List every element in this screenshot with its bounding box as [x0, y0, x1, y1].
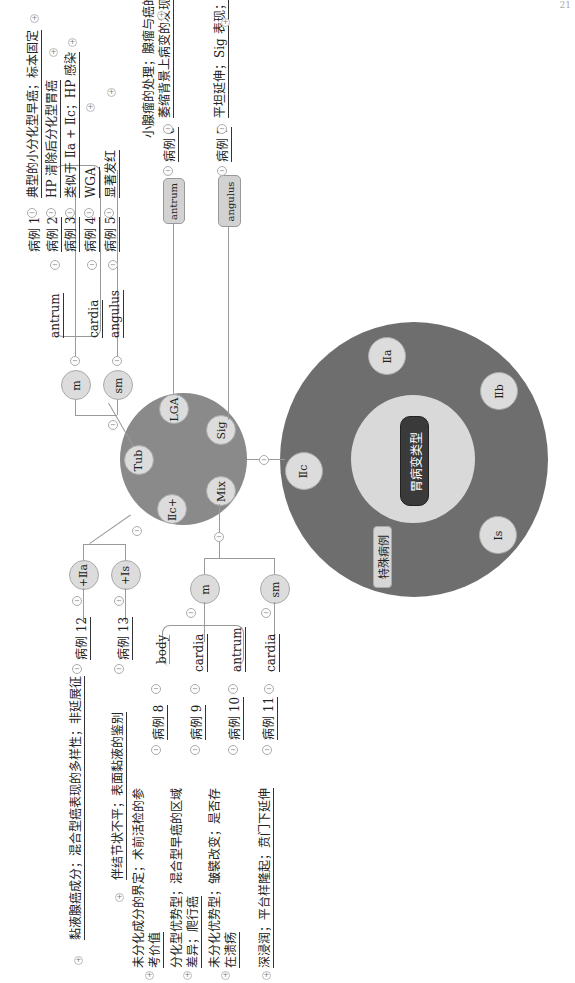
case-4-label[interactable]: 病例 4: [84, 217, 100, 252]
node-plus-iia[interactable]: +Ⅱa: [69, 560, 99, 590]
expand-case-2[interactable]: +: [49, 48, 58, 57]
collapse-toggle-antrum-10[interactable]: −: [228, 684, 238, 694]
tub-depth-m[interactable]: m: [61, 370, 91, 400]
node-plus-is[interactable]: +Ⅰs: [111, 560, 141, 590]
collapse-toggle-cardia-9[interactable]: −: [190, 684, 200, 694]
case-12-note: 黏液腺癌成分；混合型癌表现的多样性；非延展征: [69, 676, 85, 940]
case-3-label[interactable]: 病例 3: [64, 217, 80, 252]
special-cases-label[interactable]: 特殊病例: [373, 526, 392, 588]
sig-site-angulus[interactable]: angulus: [218, 175, 241, 227]
expand-case-8[interactable]: +: [145, 971, 154, 980]
collapse-toggle-antrum[interactable]: −: [50, 260, 60, 270]
expand-case-13[interactable]: +: [115, 893, 124, 902]
expand-case-6[interactable]: +: [157, 11, 166, 20]
lga-site-antrum[interactable]: antrum: [163, 178, 185, 224]
ring-node-iic[interactable]: Ⅱc: [285, 452, 323, 490]
case-13-label[interactable]: 病例 13: [117, 617, 133, 660]
root-topic[interactable]: 胃病变类型: [400, 416, 429, 506]
case-11-note: 深浸润；平台样隆起；贲门下延伸: [258, 788, 274, 968]
collapse-toggle-mix-m[interactable]: −: [186, 608, 196, 618]
mix-depth-m[interactable]: m: [190, 574, 220, 604]
hub-node-tub[interactable]: Tub: [124, 445, 154, 475]
collapse-toggle-iic-plus[interactable]: −: [132, 526, 142, 536]
connector-iic-plus-bar: [83, 544, 125, 545]
expand-case-9[interactable]: +: [183, 971, 192, 980]
hub-node-mix[interactable]: Mix: [206, 476, 236, 506]
collapse-toggle-plus-iia[interactable]: −: [72, 596, 82, 606]
hub-node-sig[interactable]: Sig: [206, 415, 236, 445]
case-3-note: 类似于 Ⅱa + Ⅱc；HP 感染: [64, 52, 80, 198]
mix-site-body[interactable]: body: [155, 635, 170, 664]
connector-iic-plus: [89, 515, 131, 544]
case-2-label[interactable]: 病例 2: [46, 217, 62, 252]
expand-case-5[interactable]: +: [107, 88, 116, 97]
collapse-toggle-case-12[interactable]: −: [72, 664, 82, 674]
collapse-toggle-case-6[interactable]: −: [163, 124, 173, 134]
case-5-label[interactable]: 病例 5: [104, 217, 120, 252]
collapse-toggle-case-3[interactable]: −: [65, 208, 75, 218]
case-12-label[interactable]: 病例 12: [75, 617, 91, 660]
collapse-toggle-case-2[interactable]: −: [46, 208, 56, 218]
case-8-note-line2: 考价值: [148, 932, 164, 968]
expand-case-12[interactable]: +: [74, 956, 83, 965]
collapse-toggle-body[interactable]: −: [151, 684, 161, 694]
expand-case-7[interactable]: +: [221, 18, 230, 27]
case-10-label[interactable]: 病例 10: [228, 697, 244, 740]
connector-sig: [228, 200, 229, 420]
case-4-note: WGA: [84, 167, 100, 198]
ring-node-is[interactable]: Ⅰs: [479, 516, 517, 554]
tub-site-antrum[interactable]: antrum: [48, 293, 64, 338]
case-9-label[interactable]: 病例 9: [190, 705, 206, 740]
collapse-toggle-cardia-11[interactable]: −: [264, 684, 274, 694]
collapse-toggle-mix-sm[interactable]: −: [261, 608, 271, 618]
case-10-note-line1: 未分化优势型；皱襞改变；是否存: [208, 788, 222, 968]
collapse-toggle-cardia[interactable]: −: [87, 260, 97, 270]
case-10-note-line2: 在溃疡: [224, 932, 240, 968]
case-6-note-line1: 小腺瘤的处理；腺瘤与癌的鉴别；: [142, 0, 156, 138]
collapse-toggle-case-5[interactable]: −: [104, 208, 114, 218]
collapse-toggle-case-13[interactable]: −: [114, 664, 124, 674]
case-8-note-line1: 未分化成分的界定；术前活检的参: [132, 788, 146, 968]
collapse-toggle-hub[interactable]: −: [259, 455, 269, 465]
case-9-note-line1: 分化型优势型；混合型早癌的区域: [170, 788, 184, 968]
expand-case-1[interactable]: +: [30, 14, 39, 23]
collapse-toggle-tub-sm[interactable]: −: [112, 356, 122, 366]
expand-case-4[interactable]: +: [86, 103, 95, 112]
case-11-label[interactable]: 病例 11: [262, 697, 278, 740]
collapse-toggle-lga-antrum[interactable]: −: [163, 166, 173, 176]
expand-case-3[interactable]: +: [68, 38, 77, 47]
collapse-toggle-sig-angulus[interactable]: −: [217, 166, 227, 176]
case-1-note: 典型的小分化型早癌；标本固定: [26, 30, 42, 198]
case-2-note: HP 清除后分化型胃癌: [45, 80, 61, 198]
mix-depth-sm[interactable]: sm: [260, 574, 290, 604]
case-1-label[interactable]: 病例 1: [28, 217, 42, 252]
collapse-toggle-case-10[interactable]: −: [228, 745, 238, 755]
tub-depth-sm[interactable]: sm: [103, 370, 133, 400]
mix-site-cardia-9[interactable]: cardia: [192, 634, 208, 672]
hub-node-iic-plus[interactable]: Ⅱc+: [157, 494, 187, 524]
expand-case-11[interactable]: +: [262, 971, 271, 980]
ring-node-iia[interactable]: Ⅱa: [368, 337, 406, 375]
mix-site-cardia-11[interactable]: cardia: [264, 634, 280, 672]
connector-mix-hbar: [204, 558, 274, 559]
collapse-toggle-case-9[interactable]: −: [190, 745, 200, 755]
connector-lga: [173, 200, 174, 395]
connector-tub-bar: [75, 415, 117, 416]
collapse-toggle-case-7[interactable]: −: [217, 124, 227, 134]
collapse-toggle-case-8[interactable]: −: [151, 745, 161, 755]
collapse-toggle-tub-m[interactable]: −: [70, 356, 80, 366]
mix-site-antrum-10[interactable]: antrum: [230, 627, 246, 672]
tub-site-cardia[interactable]: cardia: [87, 300, 103, 338]
collapse-toggle-case-11[interactable]: −: [262, 745, 272, 755]
collapse-toggle-case-4[interactable]: −: [84, 208, 94, 218]
ring-node-iib[interactable]: Ⅱb: [480, 372, 518, 410]
collapse-toggle-case-1[interactable]: −: [27, 208, 37, 218]
hub-node-lga[interactable]: LGA: [159, 394, 189, 424]
case-8-label[interactable]: 病例 8: [152, 705, 168, 740]
collapse-toggle-tub[interactable]: −: [108, 420, 118, 430]
expand-case-10[interactable]: +: [221, 971, 230, 980]
tub-site-angulus[interactable]: angulus: [108, 290, 124, 338]
collapse-toggle-plus-is[interactable]: −: [114, 596, 124, 606]
collapse-toggle-angulus[interactable]: −: [108, 260, 118, 270]
collapse-toggle-mix[interactable]: −: [214, 532, 224, 542]
